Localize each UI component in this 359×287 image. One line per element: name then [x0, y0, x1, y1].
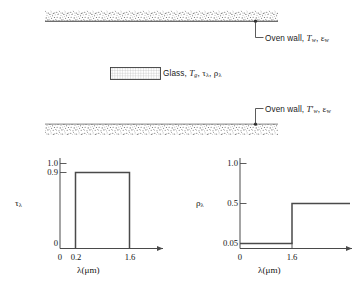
bottom-wall-leader	[254, 109, 264, 126]
tau-x-axis-label-unit: (μm)	[81, 265, 99, 275]
tau-data-curve	[76, 173, 130, 249]
rho-x-axis-label: λ(μm)	[258, 265, 281, 275]
tau-y-axis-label: τλ	[15, 198, 22, 208]
rho-x-axis-arrow	[346, 246, 352, 251]
tau-xtick-label-0.2: 0.2	[65, 252, 87, 262]
rho-x-axis-label-unit: (μm)	[262, 265, 280, 275]
rho-ytick-label-0.5: 0.5	[208, 198, 238, 208]
top-oven-wall-label: Oven wall, Tw, εw	[265, 33, 329, 43]
bottom-oven-wall-label: Oven wall, T′w, εw	[265, 104, 331, 114]
chart-reflectivity	[240, 158, 352, 251]
rho-y-axis-label-sub: λ	[201, 201, 204, 208]
tau-ytick-label-0.9: 0.9	[28, 167, 58, 177]
rho-xtick-label-0: 0	[232, 252, 248, 262]
top-wall-leader-line	[256, 21, 264, 37]
tau-y-axis-label-sub: λ	[19, 201, 22, 208]
top-wall-leader	[254, 20, 264, 38]
glass-plate-body	[111, 68, 161, 80]
tau-x-axis-arrow	[157, 246, 163, 251]
chart-transmissivity	[60, 158, 163, 251]
bottom-oven-wall-label-text: Oven wall,	[265, 105, 307, 114]
top-wall-stipple	[45, 11, 278, 22]
bottom-wall-leader-line	[256, 109, 264, 125]
bottom-wall-stipple	[45, 125, 278, 136]
bottom-oven-wall	[45, 124, 278, 135]
tau-xtick-label-1.6: 1.6	[119, 252, 141, 262]
rho-data-curve	[240, 204, 350, 244]
glass-plate	[111, 68, 161, 80]
rho-y-axis-label: ρλ	[196, 198, 204, 208]
top-oven-wall-label-text: Oven wall,	[265, 34, 307, 43]
top-oven-wall	[45, 11, 278, 22]
figure-root: Oven wall, Tw, εw Glass, Tg, τλ, ρλ Oven…	[0, 0, 359, 287]
tau-x-axis-label: λ(μm)	[77, 265, 100, 275]
rho-ytick-label-0.05: 0.05	[204, 238, 238, 248]
glass-label: Glass, Tg, τλ, ρλ	[163, 68, 222, 78]
bottom-oven-wall-symbol-epsilon-sub: w	[326, 107, 331, 114]
glass-symbol-rho-sub: λ	[218, 71, 221, 78]
glass-label-text: Glass,	[163, 69, 189, 78]
rho-xtick-label-1.6: 1.6	[281, 252, 303, 262]
tau-ytick-label-0: 0	[40, 238, 58, 248]
top-oven-wall-symbol-epsilon-sub: w	[325, 36, 330, 43]
rho-ytick-label-1.0: 1.0	[208, 158, 238, 168]
